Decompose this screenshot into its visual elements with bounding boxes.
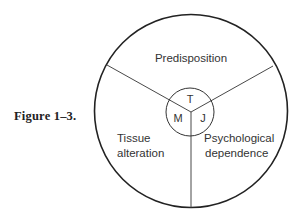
- divider-right: [191, 66, 273, 112]
- segment-label-tissue-line2: alteration: [117, 147, 164, 159]
- segment-label-predisposition: Predisposition: [155, 52, 227, 64]
- center-letter-m: M: [173, 112, 182, 124]
- center-letter-t: T: [187, 93, 194, 105]
- center-letter-j: J: [200, 112, 206, 124]
- segment-label-psych-line1: Psychological: [204, 132, 274, 144]
- etiology-pie-diagram: Predisposition Tissue alteration Psychol…: [0, 0, 297, 220]
- divider-left: [107, 65, 191, 112]
- segment-label-psych-line2: dependence: [205, 147, 268, 159]
- segment-label-tissue-line1: Tissue: [117, 132, 150, 144]
